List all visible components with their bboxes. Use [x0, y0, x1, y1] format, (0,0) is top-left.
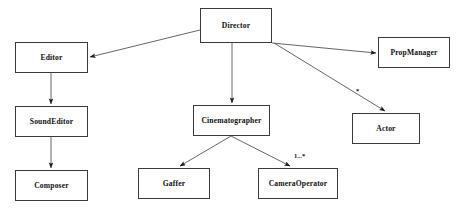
class-name-composer: Composer	[34, 182, 69, 190]
class-name-gaffer: Gaffer	[163, 180, 185, 188]
edge-cinematographer-cameraoperator	[231, 136, 290, 166]
class-name-cinematographer: Cinematographer	[201, 117, 261, 125]
edge-label-cameraoperator-multiplicity: 1...*	[294, 153, 305, 159]
class-box-soundeditor[interactable]: SoundEditor	[15, 106, 88, 137]
edge-director-actor	[274, 43, 385, 111]
class-name-director: Director	[222, 22, 250, 30]
class-name-editor: Editor	[41, 54, 63, 62]
class-box-gaffer[interactable]: Gaffer	[138, 168, 210, 199]
class-box-composer[interactable]: Composer	[15, 170, 88, 201]
class-name-soundeditor: SoundEditor	[30, 118, 73, 126]
class-name-cameraoperator: CameraOperator	[269, 180, 328, 188]
class-box-director[interactable]: Director	[200, 8, 272, 43]
class-box-actor[interactable]: Actor	[352, 113, 420, 144]
class-name-propmanager: PropManager	[390, 49, 437, 57]
class-box-propmanager[interactable]: PropManager	[378, 37, 450, 68]
edge-cinematographer-gaffer	[180, 136, 231, 166]
class-box-editor[interactable]: Editor	[15, 42, 88, 73]
edge-label-actor-multiplicity: *	[356, 88, 359, 94]
edge-director-editor	[90, 30, 200, 57]
class-name-actor: Actor	[376, 125, 395, 133]
class-box-cameraoperator[interactable]: CameraOperator	[258, 168, 338, 199]
edge-paths	[51, 30, 385, 168]
uml-class-diagram: DirectorEditorPropManagerSoundEditorCine…	[0, 0, 460, 209]
class-box-cinematographer[interactable]: Cinematographer	[193, 105, 270, 136]
